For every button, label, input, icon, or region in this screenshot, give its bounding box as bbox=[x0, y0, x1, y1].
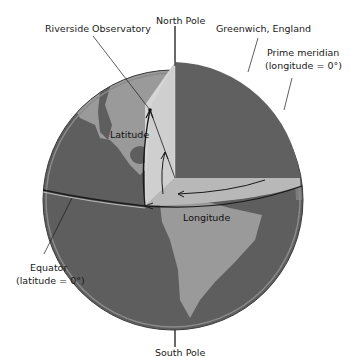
greenwich-leader bbox=[248, 38, 258, 72]
prime-meridian-label: Prime meridian bbox=[267, 47, 339, 58]
cutaway-wedge bbox=[145, 62, 300, 206]
globe-diagram: North Pole Riverside Observatory Greenwi… bbox=[0, 0, 351, 357]
latitude-label: Latitude bbox=[110, 129, 149, 140]
greenwich-label: Greenwich, England bbox=[216, 23, 311, 34]
prime-meridian-sublabel: (longitude = 0°) bbox=[265, 60, 342, 71]
riverside-marker bbox=[148, 108, 152, 112]
equator-label: Equator bbox=[30, 262, 67, 273]
riverside-observatory-label: Riverside Observatory bbox=[45, 23, 151, 34]
equator-sublabel: (latitude = 0°) bbox=[16, 275, 85, 286]
longitude-label: Longitude bbox=[183, 212, 230, 223]
north-pole-label: North Pole bbox=[156, 15, 205, 26]
prime-meridian-leader bbox=[284, 78, 292, 110]
south-pole-label: South Pole bbox=[155, 347, 205, 357]
